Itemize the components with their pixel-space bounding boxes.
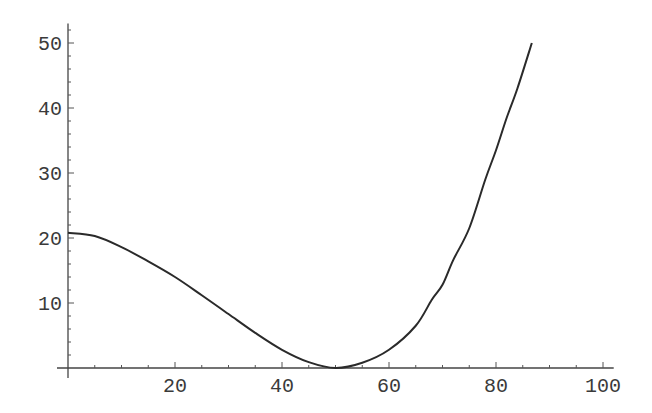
x-tick-label: 40 (270, 375, 294, 398)
y-tick-label: 40 (38, 98, 62, 121)
y-tick-label: 20 (38, 228, 62, 251)
y-tick-label: 10 (38, 293, 62, 316)
plot-series (68, 43, 532, 368)
x-tick-label: 20 (163, 375, 187, 398)
x-tick-label: 80 (484, 375, 508, 398)
x-tick-label: 60 (377, 375, 401, 398)
data-line (68, 43, 532, 368)
y-axis: 1020304050 (38, 24, 74, 379)
y-tick-label: 30 (38, 163, 62, 186)
x-tick-label: 100 (585, 375, 621, 398)
y-tick-label: 50 (38, 33, 62, 56)
line-chart: 20406080100 1020304050 (0, 0, 652, 413)
